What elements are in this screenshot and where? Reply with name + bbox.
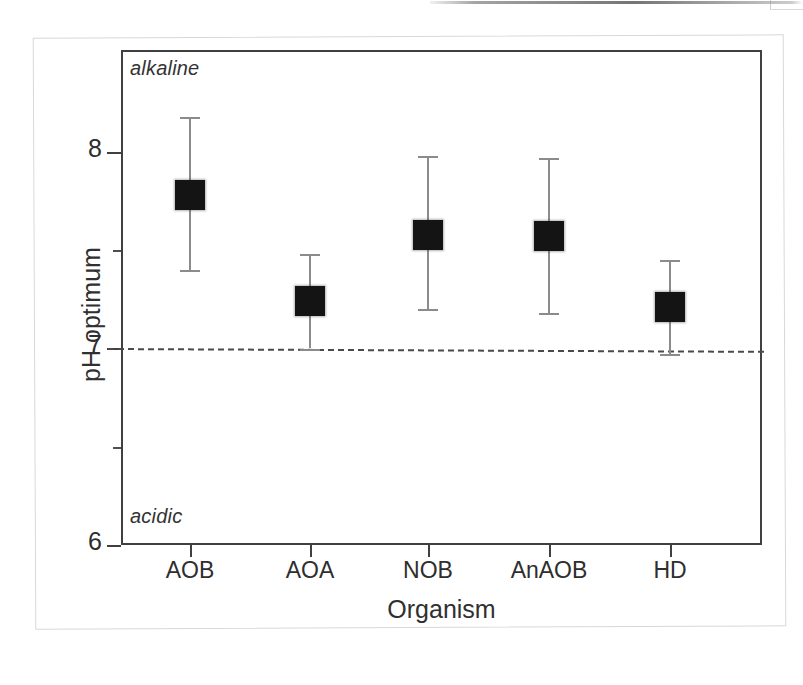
errorbar-cap-upper-aoa [300, 254, 320, 256]
figure-page: alkaline acidic pH optimum 8 7 6 AOB AOA… [0, 0, 803, 685]
data-point-aob[interactable] [175, 180, 205, 210]
errorbar-cap-lower-nob [418, 309, 438, 311]
data-series-layer [0, 0, 803, 685]
errorbar-cap-upper-nob [418, 156, 438, 158]
errorbar-cap-upper-anaob [539, 158, 559, 160]
data-point-nob[interactable] [413, 220, 443, 250]
errorbar-cap-upper-aob [180, 117, 200, 119]
errorbar-cap-lower-aob [180, 270, 200, 272]
plot-area: alkaline acidic pH optimum 8 7 6 AOB AOA… [0, 0, 803, 685]
data-point-aoa[interactable] [295, 286, 325, 316]
errorbar-cap-lower-aoa [300, 349, 320, 351]
errorbar-cap-upper-hd [660, 260, 680, 262]
errorbar-cap-lower-hd [660, 354, 680, 356]
data-point-anaob[interactable] [534, 221, 564, 251]
data-point-hd[interactable] [655, 292, 685, 322]
errorbar-cap-lower-anaob [539, 313, 559, 315]
